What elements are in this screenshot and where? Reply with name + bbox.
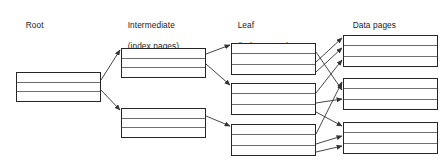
leaf-1-to-data-2-row1 xyxy=(316,52,342,90)
leaf-page-1 xyxy=(231,43,316,75)
root-page-1 xyxy=(16,72,101,102)
leaf-2-to-data-3-row1 xyxy=(316,112,342,126)
data-page-3 xyxy=(343,122,438,154)
leaf-page-2 xyxy=(231,83,316,115)
page-row xyxy=(232,94,315,104)
btree-index-diagram: Root Intermediate (index pages) Leaf (in… xyxy=(0,0,446,167)
leaf-2-to-data-1-row3 xyxy=(316,60,342,93)
page-row xyxy=(232,125,315,135)
leaf-3-to-data-3-row3 xyxy=(316,146,342,152)
page-row xyxy=(122,49,205,59)
page-row xyxy=(17,92,100,101)
page-row xyxy=(232,65,315,74)
page-row xyxy=(344,89,437,99)
data-page-2 xyxy=(343,78,438,110)
page-row xyxy=(232,135,315,145)
leaf-1-to-data-1-row1 xyxy=(316,38,342,62)
intermediate-page-2 xyxy=(121,108,206,138)
column-label-root: Root xyxy=(16,9,44,41)
page-row xyxy=(232,44,315,54)
column-label-root-line1: Root xyxy=(26,20,44,30)
page-row xyxy=(17,83,100,93)
leaf-3-to-data-3-row2 xyxy=(316,136,342,144)
intermediate-1-to-leaf-1 xyxy=(206,45,230,54)
column-label-intermediate-line1: Intermediate xyxy=(128,20,175,30)
column-label-data-pages-line1: Data pages xyxy=(353,20,396,30)
page-row xyxy=(344,36,437,46)
page-row xyxy=(344,79,437,89)
page-row xyxy=(232,146,315,155)
intermediate-2-to-leaf-3 xyxy=(206,116,230,126)
column-label-leaf-line1: Leaf xyxy=(238,20,255,30)
page-row xyxy=(122,119,205,129)
page-row xyxy=(344,57,437,66)
page-row xyxy=(232,54,315,64)
page-row xyxy=(122,68,205,77)
page-row xyxy=(344,123,437,133)
leaf-2-to-data-2-row2 xyxy=(316,99,342,103)
intermediate-page-1 xyxy=(121,48,206,78)
leaf-page-3 xyxy=(231,124,316,156)
page-row xyxy=(122,128,205,137)
page-row xyxy=(344,46,437,56)
data-page-1 xyxy=(343,35,438,67)
page-row xyxy=(344,100,437,109)
root-to-intermediate-2 xyxy=(101,90,120,110)
page-row xyxy=(344,133,437,143)
page-row xyxy=(17,73,100,83)
page-row xyxy=(122,59,205,69)
leaf-3-to-data-2-row3 xyxy=(316,82,342,134)
page-row xyxy=(232,105,315,114)
page-row xyxy=(232,84,315,94)
intermediate-1-to-leaf-2 xyxy=(206,64,230,85)
page-row xyxy=(344,144,437,153)
leaf-1-to-data-1-row2 xyxy=(316,48,342,72)
page-row xyxy=(122,109,205,119)
